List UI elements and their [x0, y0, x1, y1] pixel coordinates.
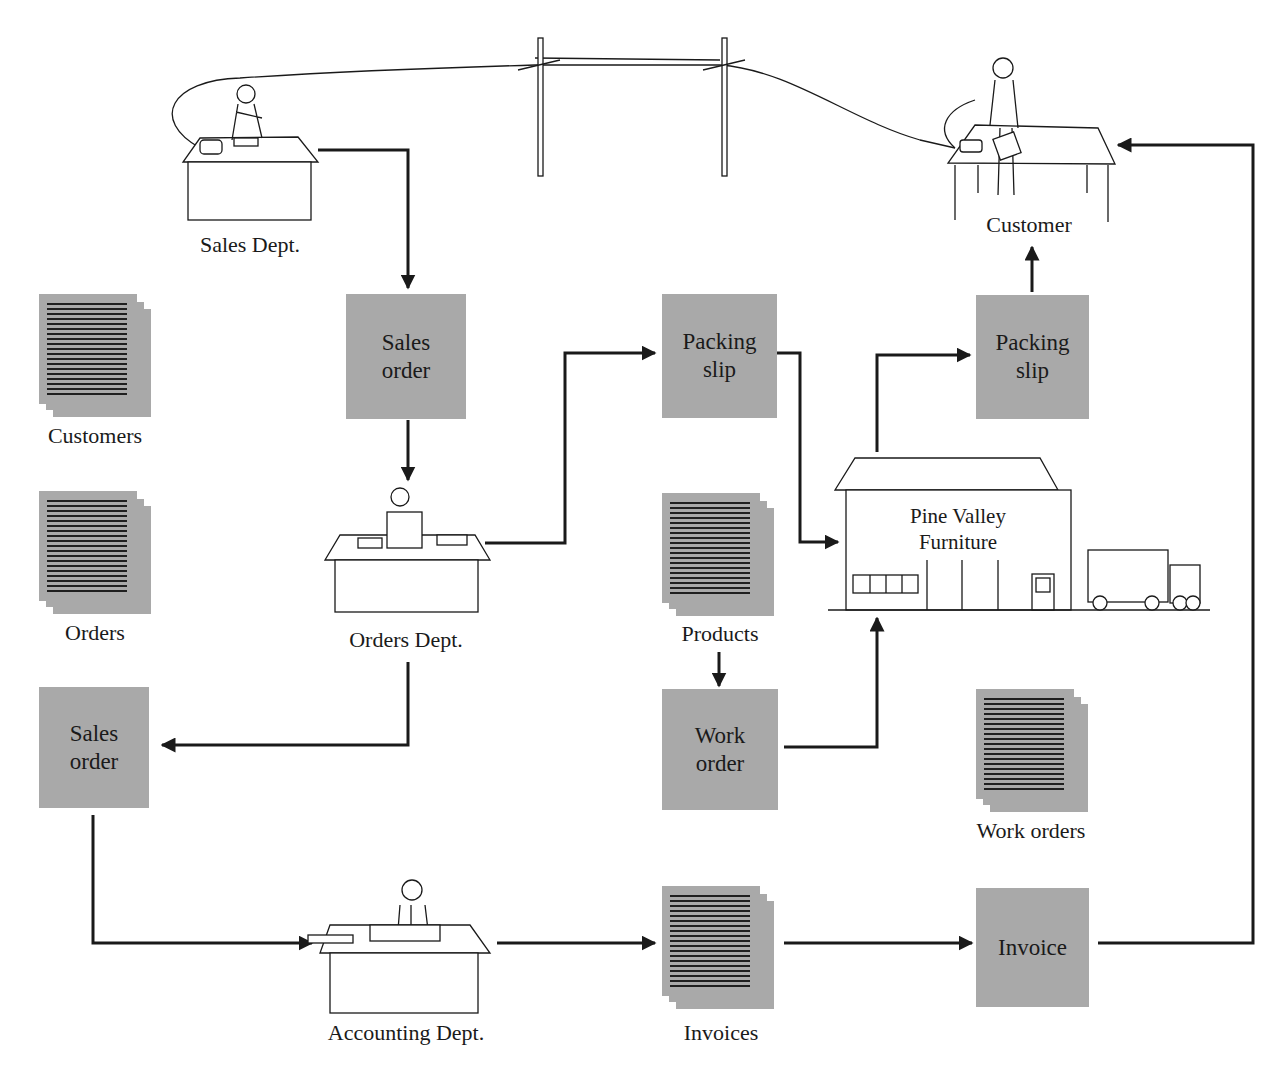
invoice-doc-label: Invoice	[998, 934, 1067, 962]
sales-order-copy-doc-label: Sales order	[70, 720, 119, 776]
packing-slip-doc: Packing slip	[662, 294, 777, 418]
orders-dept-label: Orders Dept.	[349, 627, 463, 653]
customers-file-icon	[39, 294, 151, 418]
accounting-dept-label: Accounting Dept.	[328, 1020, 484, 1046]
sales-dept-illustration	[183, 85, 318, 220]
customer-illustration	[948, 58, 1115, 222]
diagram-canvas: Sales Dept. Customer Orders Dept. Accoun…	[0, 0, 1286, 1073]
sales-dept-label: Sales Dept.	[200, 232, 300, 258]
flow-arrows	[0, 0, 1286, 1073]
orders-file-label: Orders	[65, 620, 125, 646]
products-file-icon	[662, 493, 774, 617]
packing-slip-customer-doc-label: Packing slip	[995, 329, 1069, 385]
orders-dept-illustration	[325, 488, 490, 612]
accounting-dept-illustration	[308, 880, 490, 1013]
invoice-doc: Invoice	[976, 888, 1089, 1007]
work-orders-file-label: Work orders	[977, 818, 1086, 844]
invoices-file-label: Invoices	[684, 1020, 759, 1046]
customer-label: Customer	[986, 212, 1072, 238]
sales-order-doc: Sales order	[346, 294, 466, 419]
orders-file-icon	[39, 491, 151, 615]
products-file-label: Products	[682, 621, 759, 647]
invoices-file-icon	[662, 886, 774, 1010]
customers-file-label: Customers	[48, 423, 142, 449]
pine-valley-label: Pine Valley Furniture	[910, 503, 1006, 555]
work-orders-file-icon	[976, 689, 1088, 813]
packing-slip-customer-doc: Packing slip	[976, 295, 1089, 419]
work-order-doc: Work order	[662, 689, 778, 810]
packing-slip-doc-label: Packing slip	[682, 328, 756, 384]
sales-order-doc-label: Sales order	[382, 329, 431, 385]
work-order-doc-label: Work order	[695, 722, 746, 778]
pine-valley-building	[828, 458, 1210, 610]
sales-order-copy-doc: Sales order	[39, 687, 149, 808]
